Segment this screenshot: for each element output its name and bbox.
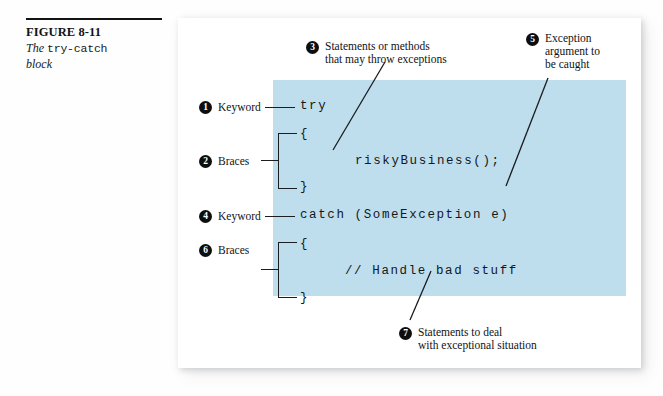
callout-label-7-line2: with exceptional situation <box>418 339 537 353</box>
callout-leader-4 <box>265 216 295 217</box>
caption-tail: block <box>26 57 52 71</box>
figure-caption-text: The try-catchblock <box>26 41 166 72</box>
callout-label-3-line1: Statements or methods <box>325 40 430 54</box>
callout-label-2: Braces <box>218 155 249 169</box>
figure-caption: FIGURE 8-11 The try-catchblock <box>26 18 166 72</box>
code-line-catch: catch (SomeException e) <box>300 208 509 222</box>
callout-label-6: Braces <box>218 244 249 258</box>
callout-label-3-line2: that may throw exceptions <box>325 53 447 67</box>
code-line-close-brace-catch: } <box>300 291 309 305</box>
callout-label-4: Keyword <box>218 210 261 224</box>
code-line-try: try <box>300 99 327 113</box>
callout-marker-6: 6 <box>199 244 212 257</box>
callout-bracket-2 <box>261 133 297 189</box>
figure-page: FIGURE 8-11 The try-catchblock try { ris… <box>0 0 663 396</box>
caption-rule <box>26 18 162 20</box>
callout-label-7-line1: Statements to deal <box>418 326 502 340</box>
callout-marker-2: 2 <box>199 155 212 168</box>
callout-marker-7: 7 <box>399 327 412 340</box>
caption-lead: The <box>26 41 47 55</box>
callout-marker-3: 3 <box>306 41 319 54</box>
code-line-open-brace-try: { <box>300 127 309 141</box>
callout-label-5-line1: Exception <box>545 32 592 46</box>
callout-marker-5: 5 <box>526 33 539 46</box>
callout-label-5-line2: argument to <box>545 45 600 59</box>
code-line-handle-comment: // Handle bad stuff <box>345 264 518 278</box>
callout-label-1: Keyword <box>218 101 261 115</box>
callout-bracket-6 <box>261 242 297 298</box>
caption-mono-term: try-catch <box>47 42 107 55</box>
callout-label-5-line3: be caught <box>545 58 589 72</box>
callout-marker-4: 4 <box>199 210 212 223</box>
figure-number: FIGURE 8-11 <box>26 25 166 40</box>
code-line-risky-business: riskyBusiness(); <box>355 154 501 168</box>
code-line-open-brace-catch: { <box>300 237 309 251</box>
callout-leader-1 <box>265 107 295 108</box>
callout-marker-1: 1 <box>199 101 212 114</box>
code-line-close-brace-try: } <box>300 180 309 194</box>
